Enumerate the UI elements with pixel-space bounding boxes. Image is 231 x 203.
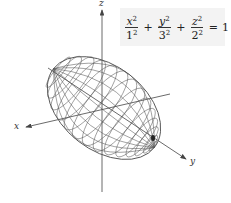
plus-sign: + [176,21,185,34]
pole-point [151,135,155,141]
y-axis-label: y [190,156,195,166]
equation-rhs: 1 [222,21,229,34]
plus-sign: + [143,21,152,34]
x-axis-label: x [14,121,19,131]
x-axis [26,94,170,127]
z-axis-label: z [99,0,104,8]
ellipsoid-surface [28,36,181,181]
equals-sign: = [209,21,218,34]
term-x: x2 12 [125,14,138,41]
term-z: z2 22 [190,14,203,41]
equation-box: x2 12 + y2 32 + z2 22 = 1 [120,8,225,46]
term-y: y2 32 [158,14,171,41]
